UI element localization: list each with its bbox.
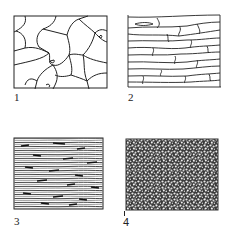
panel-2-label: 2: [128, 92, 134, 103]
equiaxed-grain-drawing: [13, 15, 109, 90]
panel-2-elongated-grains: [127, 14, 222, 89]
panel-1-label: 1: [14, 92, 20, 103]
fine-grain-drawing: [125, 138, 220, 212]
panel-1-equiaxed-grains: [13, 15, 109, 90]
panel-4-label: 4: [123, 217, 129, 228]
panel-3-fibrous-grains: [13, 137, 105, 211]
fibrous-grain-drawing: [13, 137, 105, 211]
panel-4-fine-grains: [125, 138, 220, 212]
panel-3-label: 3: [14, 216, 20, 227]
elongated-grain-drawing: [127, 14, 222, 89]
